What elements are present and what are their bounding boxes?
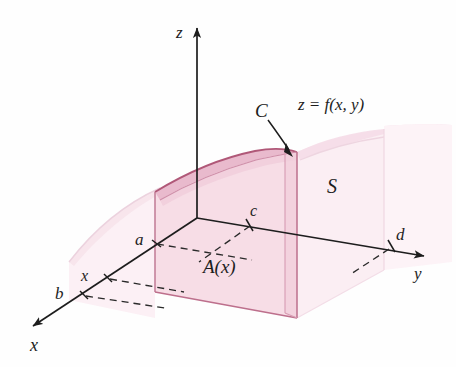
tick-label-c: c xyxy=(250,203,257,219)
axis-label-z: z xyxy=(176,24,183,41)
solid-label-s: S xyxy=(327,176,337,196)
cross-section-slab xyxy=(155,149,297,318)
axis-label-y: y xyxy=(414,265,422,282)
curve-label-c: C xyxy=(255,101,268,120)
surface-equation: z = f(x, y) xyxy=(298,96,364,113)
area-label-ax: A(x) xyxy=(203,257,236,276)
solid-far-panel xyxy=(384,124,452,270)
tick-label-a: a xyxy=(135,231,144,248)
tick-label-d: d xyxy=(396,226,405,243)
tick-label-x: x xyxy=(81,268,88,284)
figure-canvas: z y x a b c d x C S A(x) z = f(x, y) xyxy=(0,0,456,367)
axis-label-x: x xyxy=(30,336,38,354)
diagram-svg xyxy=(0,0,456,367)
tick-label-b: b xyxy=(55,285,64,302)
